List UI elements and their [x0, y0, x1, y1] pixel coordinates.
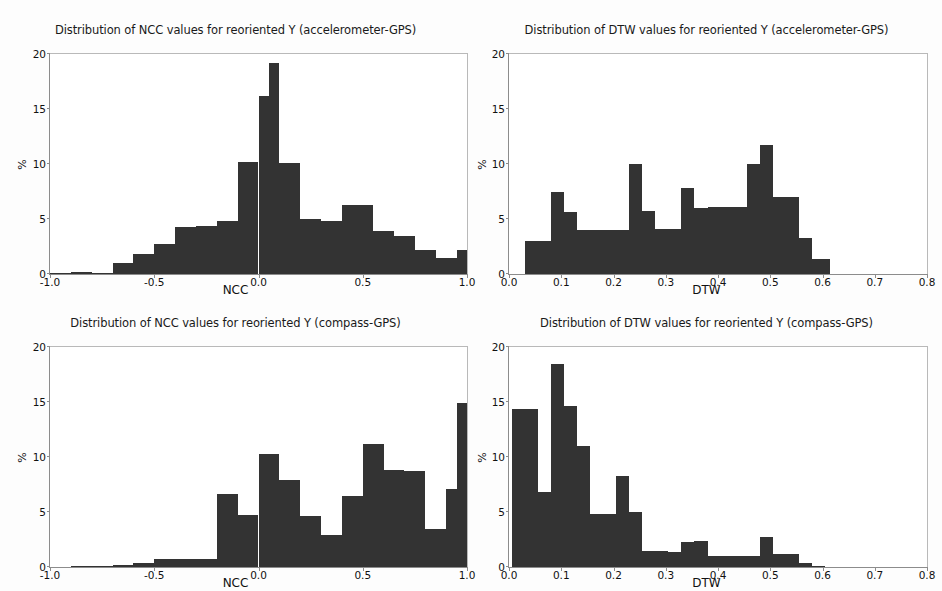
histogram-bar — [773, 197, 786, 274]
x-tick-label: -1.0 — [40, 570, 61, 581]
x-tick-label: 0.5 — [762, 570, 779, 581]
x-tick-mark — [875, 567, 876, 571]
histogram-bar — [668, 229, 681, 274]
histogram-bar — [708, 556, 721, 567]
histogram-bar — [616, 476, 629, 567]
histogram-bar — [603, 514, 616, 567]
y-tick-label: 5 — [498, 214, 505, 224]
plot-area: 05101520-1.0-0.50.00.51.0 — [49, 346, 468, 568]
histogram-bar — [279, 480, 300, 567]
histogram-bar — [642, 551, 655, 568]
histogram-bar — [629, 164, 642, 274]
x-tick-mark — [259, 274, 260, 278]
histogram-bars — [509, 54, 927, 274]
histogram-bar — [577, 446, 590, 567]
panel-ncc-compass-gps: Distribution of NCC values for reoriente… — [0, 296, 471, 591]
y-tick-mark — [47, 346, 51, 347]
y-tick-label: 10 — [492, 452, 505, 462]
histogram-bar — [773, 554, 786, 567]
histogram-bar — [642, 211, 655, 274]
histogram-bar — [590, 230, 616, 274]
panel-title: Distribution of DTW values for reoriente… — [471, 317, 942, 330]
x-tick-label: 0.4 — [710, 570, 727, 581]
x-tick-label: 0.1 — [553, 277, 570, 288]
histogram-bar — [71, 272, 92, 274]
histogram-bar — [259, 96, 269, 274]
x-tick-label: 0.8 — [919, 277, 936, 288]
histogram-bar — [342, 496, 363, 568]
panel-ncc-accelerometer-gps: Distribution of NCC values for reoriente… — [0, 0, 471, 296]
histogram-bars — [50, 347, 467, 567]
histogram-bar — [259, 454, 280, 567]
histogram-bar — [655, 229, 668, 274]
histogram-bar — [300, 219, 321, 274]
histogram-bar — [721, 207, 734, 274]
histogram-bar — [217, 494, 238, 567]
histogram-bar — [404, 471, 425, 567]
x-tick-label: 0.2 — [605, 277, 622, 288]
x-tick-label: 0.2 — [605, 570, 622, 581]
histogram-bar — [721, 556, 734, 567]
x-tick-label: 0.4 — [710, 277, 727, 288]
x-tick-mark — [561, 567, 562, 571]
plot-area: 05101520-1.0-0.50.00.51.0 — [49, 53, 468, 275]
x-tick-mark — [363, 274, 364, 278]
histogram-bar — [436, 258, 457, 275]
panel-dtw-compass-gps: Distribution of DTW values for reoriente… — [471, 296, 942, 591]
x-tick-mark — [823, 274, 824, 278]
histogram-bar — [175, 559, 196, 567]
histogram-bar — [446, 489, 456, 567]
y-axis-label: % — [16, 159, 29, 169]
x-tick-mark — [614, 274, 615, 278]
histogram-bar — [154, 244, 175, 274]
histogram-bar — [196, 226, 217, 274]
histogram-bar — [415, 250, 436, 274]
y-tick-label: 10 — [33, 159, 46, 169]
histogram-bar — [564, 406, 577, 567]
histogram-bar — [196, 559, 217, 567]
y-tick-label: 20 — [492, 342, 505, 352]
histogram-bar — [786, 197, 799, 274]
y-tick-label: 15 — [33, 104, 46, 114]
histogram-bar — [681, 188, 694, 274]
y-tick-mark — [506, 456, 510, 457]
histogram-bar — [590, 514, 603, 567]
x-tick-mark — [467, 274, 468, 278]
histogram-bars — [509, 347, 927, 567]
histogram-bar — [373, 231, 394, 274]
y-tick-mark — [506, 346, 510, 347]
x-tick-mark — [718, 567, 719, 571]
y-tick-label: 10 — [33, 452, 46, 462]
x-tick-label: 0.7 — [866, 570, 883, 581]
histogram-bar — [655, 551, 668, 568]
histogram-bar — [747, 164, 760, 274]
x-tick-mark — [154, 567, 155, 571]
y-tick-label: 15 — [492, 104, 505, 114]
histogram-bar — [133, 254, 154, 274]
histogram-bar — [238, 515, 259, 567]
y-tick-label: 5 — [498, 507, 505, 517]
x-tick-mark — [614, 567, 615, 571]
histogram-bar — [71, 566, 92, 567]
histogram-bar — [512, 409, 525, 567]
y-tick-label: 20 — [33, 49, 46, 59]
histogram-bar — [708, 207, 721, 274]
x-tick-mark — [875, 274, 876, 278]
panel-dtw-accelerometer-gps: Distribution of DTW values for reoriente… — [471, 0, 942, 296]
x-tick-label: 0.0 — [250, 570, 267, 581]
x-tick-label: 0.8 — [919, 570, 936, 581]
plot-area: 051015200.00.10.20.30.40.50.60.70.8 — [508, 53, 928, 275]
x-tick-mark — [50, 274, 51, 278]
y-tick-label: 20 — [492, 49, 505, 59]
histogram-bar — [175, 227, 196, 274]
histogram-bar — [321, 535, 342, 567]
histogram-bar — [92, 566, 113, 567]
x-tick-mark — [770, 567, 771, 571]
y-axis-label: % — [16, 452, 29, 462]
y-tick-mark — [506, 53, 510, 54]
x-tick-label: 0.6 — [814, 277, 831, 288]
x-tick-label: 0.0 — [501, 277, 518, 288]
x-tick-label: 0.5 — [354, 570, 371, 581]
histogram-bar — [154, 559, 175, 567]
histogram-bar — [564, 212, 577, 274]
